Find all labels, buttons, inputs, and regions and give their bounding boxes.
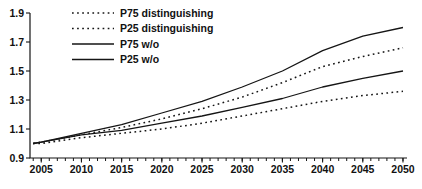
x-tick-label: 2050 <box>391 163 415 175</box>
y-tick-label: 1.9 <box>9 7 24 19</box>
y-tick-label: 1.7 <box>9 36 24 48</box>
legend-label: P75 distinguishing <box>120 7 213 19</box>
y-tick-label: 1.3 <box>9 94 24 106</box>
y-tick-label: 1.1 <box>9 123 24 135</box>
x-tick-label: 2035 <box>271 163 295 175</box>
chart-canvas: 0.91.11.31.51.71.92005201020152020202520… <box>0 0 422 189</box>
series-p75-w-o <box>33 28 403 144</box>
x-tick-label: 2030 <box>231 163 255 175</box>
x-tick-label: 2025 <box>190 163 214 175</box>
line-chart: 0.91.11.31.51.71.92005201020152020202520… <box>0 0 422 189</box>
x-tick-label: 2045 <box>351 163 375 175</box>
x-tick-label: 2020 <box>150 163 174 175</box>
legend-label: P25 w/o <box>120 53 159 65</box>
x-tick-label: 2005 <box>30 163 54 175</box>
y-tick-label: 1.5 <box>9 65 24 77</box>
x-tick-label: 2015 <box>110 163 134 175</box>
y-tick-label: 0.9 <box>9 152 24 164</box>
x-tick-label: 2040 <box>311 163 335 175</box>
x-tick-label: 2010 <box>70 163 94 175</box>
legend-label: P75 w/o <box>120 38 159 50</box>
series-p25-distinguishing <box>33 91 403 143</box>
axes <box>30 13 407 158</box>
series-p25-w-o <box>33 71 403 144</box>
legend-label: P25 distinguishing <box>120 22 213 34</box>
